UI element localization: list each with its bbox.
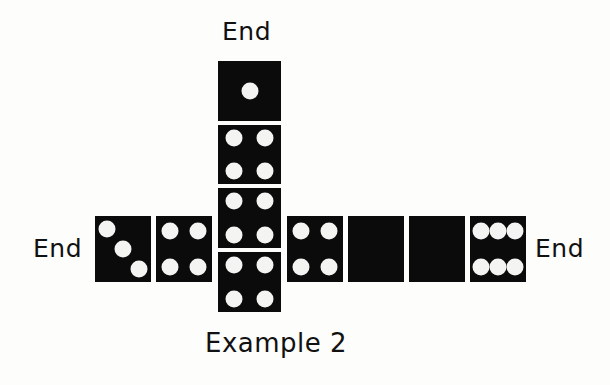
domino-tile-right-4 <box>287 216 343 282</box>
pip-dot <box>473 222 490 239</box>
pip-dot <box>162 259 179 276</box>
pip-dot <box>225 290 242 307</box>
pip-dot <box>321 222 338 239</box>
pip-dot <box>473 259 490 276</box>
pip-dot <box>130 260 147 277</box>
pip-dot <box>506 222 523 239</box>
pip-dot <box>257 257 274 274</box>
pip-dot <box>257 290 274 307</box>
pip-dot <box>506 259 523 276</box>
example-caption: Example 2 <box>205 330 347 356</box>
pip-dot <box>257 163 274 180</box>
domino-tile-column-4b <box>218 188 281 248</box>
domino-tile-column-4a <box>218 125 281 184</box>
pip-dot <box>293 259 310 276</box>
pip-dot <box>115 241 132 258</box>
pip-dot <box>490 222 507 239</box>
pip-dot <box>257 226 274 243</box>
pip-dot <box>257 129 274 146</box>
pip-dot <box>490 259 507 276</box>
pip-dot <box>99 221 116 238</box>
pip-dot <box>257 193 274 210</box>
domino-tile-left-4 <box>156 216 212 282</box>
end-label-left: End <box>33 236 82 261</box>
domino-tile-top-1 <box>218 61 281 121</box>
domino-tile-right-blank-b <box>409 216 465 282</box>
pip-dot <box>293 222 310 239</box>
pip-dot <box>190 222 207 239</box>
domino-tile-right-blank-a <box>348 216 404 282</box>
pip-dot <box>190 259 207 276</box>
domino-tile-column-4c <box>218 252 281 312</box>
pip-dot <box>225 193 242 210</box>
pip-dot <box>321 259 338 276</box>
pip-dot <box>225 226 242 243</box>
end-label-right: End <box>535 236 584 261</box>
domino-tile-left-3 <box>95 216 151 282</box>
pip-dot <box>241 83 258 100</box>
end-label-top: End <box>222 19 271 44</box>
pip-dot <box>225 163 242 180</box>
pip-dot <box>225 257 242 274</box>
pip-dot <box>162 222 179 239</box>
pip-dot <box>225 129 242 146</box>
domino-tile-right-6 <box>470 216 526 282</box>
